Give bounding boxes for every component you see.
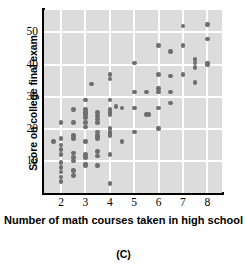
data-point [95,136,100,141]
data-point [193,65,198,70]
plot-area [44,10,222,193]
data-point [108,98,113,103]
data-point [59,170,64,175]
data-point [95,163,100,168]
data-point [156,106,161,111]
data-point [205,62,210,67]
data-point [71,159,76,164]
gridline-horizontal [44,31,222,33]
data-point [95,154,100,159]
data-point [95,120,100,125]
gridline-horizontal [44,96,222,98]
data-point [205,22,210,27]
gridline-vertical [182,10,184,193]
data-point [132,130,137,135]
x-tick-label: 6 [150,196,168,208]
data-point [156,90,161,95]
data-point [205,37,210,42]
data-point [71,120,76,125]
data-point [108,133,113,138]
data-point [59,120,64,125]
data-point [132,61,137,66]
data-point [108,112,113,117]
data-point [108,181,113,186]
x-tick-label: 8 [198,196,216,208]
data-point [95,149,100,154]
x-tick-label: 2 [52,196,70,208]
data-point [83,155,88,160]
data-point [83,120,88,125]
data-point [147,112,152,117]
data-point [168,49,173,54]
y-tick-label: 10 [14,154,38,166]
data-point [181,72,186,77]
data-point [156,43,161,48]
data-point [181,24,186,29]
data-point [59,152,64,157]
gridline-vertical [158,10,160,193]
gridline-vertical [133,10,135,193]
data-point [132,106,137,111]
y-tick-label: 20 [14,122,38,134]
data-point [83,163,88,168]
data-point [108,72,113,77]
data-point [59,179,64,184]
scatter-plot-figure: Score on college final exam 1020304050 2… [0,0,247,267]
data-point [89,82,94,87]
y-tick-label: 40 [14,58,38,70]
x-tick-label: 5 [125,196,143,208]
data-point [168,101,173,106]
data-point [132,90,137,95]
data-point [83,139,88,144]
data-point [156,72,161,77]
data-point [59,165,64,170]
data-point [181,43,186,48]
x-tick-label: 7 [174,196,192,208]
data-point [108,152,113,157]
x-tick-label: 4 [101,196,119,208]
data-point [144,90,149,95]
data-point [156,126,161,131]
data-point [59,136,64,141]
data-point [120,106,125,111]
data-point [83,98,88,103]
data-point [71,107,76,112]
plot-area-wrapper [44,10,222,193]
y-tick-label: 30 [14,90,38,102]
data-point [120,139,125,144]
data-point [108,77,113,82]
data-point [71,136,76,141]
y-tick-label: 50 [14,25,38,37]
data-point [71,173,76,178]
x-tick-label: 3 [76,196,94,208]
data-point [168,74,173,79]
data-point [114,104,119,109]
x-axis-title: Number of math courses taken in high sch… [0,214,247,228]
data-point [168,90,173,95]
panel-label: (C) [0,248,247,260]
data-point [51,139,56,144]
data-point [193,80,198,85]
